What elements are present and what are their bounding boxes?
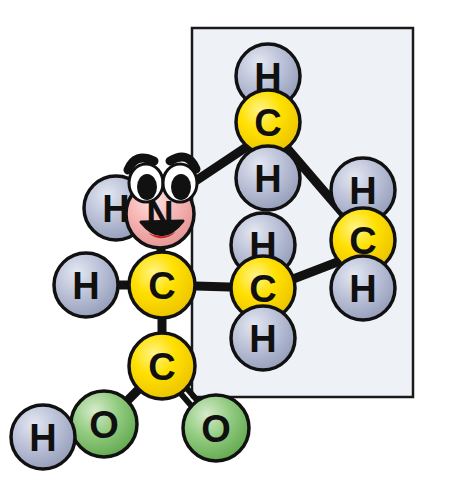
molecule-diagram: HCHHCHHCHHNHCCOOH <box>0 0 450 487</box>
atom-H-below-top: H <box>236 146 300 210</box>
atom-H-alpha: H <box>54 253 118 317</box>
atom-circle-H-mid-lower <box>231 306 295 370</box>
molecule-svg: HCHHCHHCHHNHCCOOH <box>0 0 450 487</box>
atom-circle-H-below-top <box>236 146 300 210</box>
atom-circle-H-hydroxyl <box>11 405 75 469</box>
atom-H-hydroxyl: H <box>11 405 75 469</box>
atom-C-carboxyl: C <box>129 333 195 399</box>
atom-circle-H-right-bot <box>331 256 395 320</box>
atom-circle-O-hydroxyl <box>71 391 137 457</box>
atom-circle-C-alpha <box>129 252 195 318</box>
atom-C-alpha: C <box>129 252 195 318</box>
atom-H-mid-lower: H <box>231 306 295 370</box>
atom-O-hydroxyl: O <box>71 391 137 457</box>
atom-circle-C-carboxyl <box>129 333 195 399</box>
right-eye-pupil <box>171 174 191 200</box>
atom-H-right-bot: H <box>331 256 395 320</box>
atom-circle-H-alpha <box>54 253 118 317</box>
atom-O-carbonyl: O <box>183 395 249 461</box>
left-eye-pupil <box>137 174 157 200</box>
atom-circle-O-carbonyl <box>183 395 249 461</box>
